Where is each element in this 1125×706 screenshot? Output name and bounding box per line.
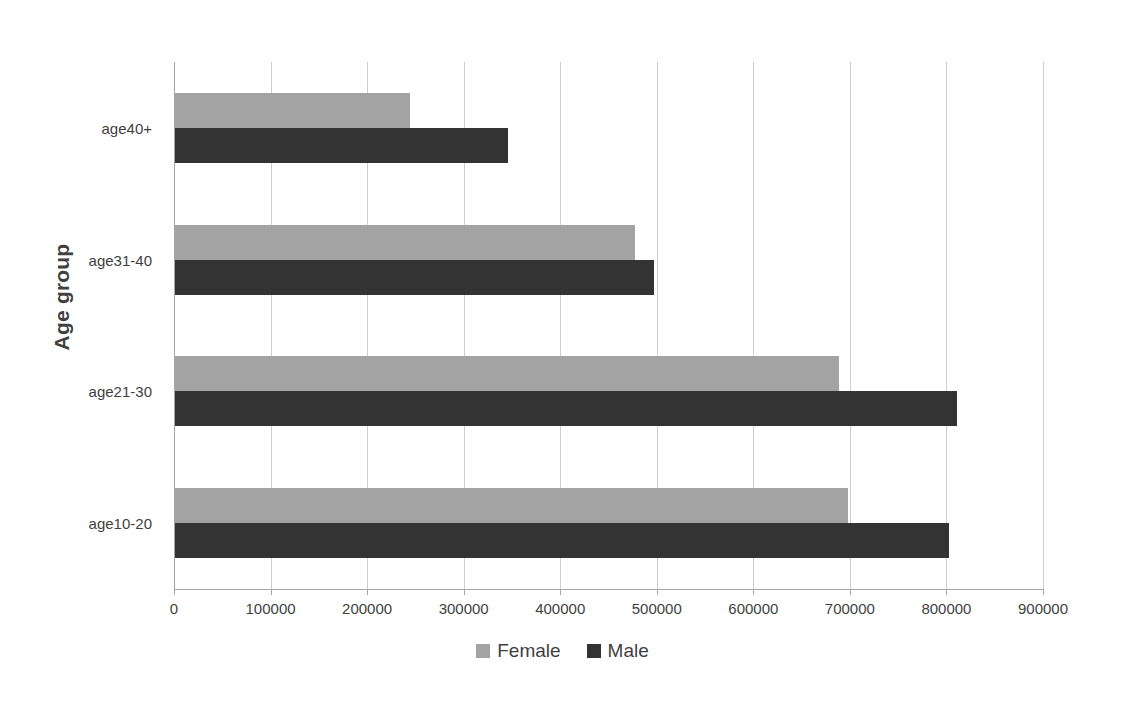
bar-group: [175, 488, 1044, 558]
chart-legend: FemaleMale: [0, 640, 1125, 662]
x-tick: [1043, 589, 1044, 595]
bar-male-age31-40: [175, 260, 654, 295]
x-tick: [464, 589, 465, 595]
x-tick-label-200000: 200000: [342, 600, 392, 617]
legend-item-female[interactable]: Female: [476, 640, 560, 662]
bar-female-age40+: [175, 93, 410, 128]
legend-item-male[interactable]: Male: [587, 640, 649, 662]
bar-group: [175, 356, 1044, 426]
x-tick-label-100000: 100000: [246, 600, 296, 617]
x-tick-label-400000: 400000: [535, 600, 585, 617]
bar-female-age21-30: [175, 356, 839, 391]
bar-male-age21-30: [175, 391, 957, 426]
x-tick-label-900000: 900000: [1018, 600, 1068, 617]
x-tick-label-700000: 700000: [825, 600, 875, 617]
x-tick-label-500000: 500000: [632, 600, 682, 617]
x-tick: [367, 589, 368, 595]
x-tick-label-300000: 300000: [439, 600, 489, 617]
bar-male-age10-20: [175, 523, 949, 558]
y-tick-label-age40+: age40+: [102, 119, 152, 136]
plot-area: [174, 62, 1043, 589]
bar-female-age31-40: [175, 225, 635, 260]
bar-group: [175, 225, 1044, 295]
legend-label-male: Male: [608, 640, 649, 662]
bar-male-age40+: [175, 128, 508, 163]
bar-female-age10-20: [175, 488, 848, 523]
x-tick: [850, 589, 851, 595]
y-tick-label-age31-40: age31-40: [89, 251, 152, 268]
x-tick-label-0: 0: [170, 600, 178, 617]
y-tick-label-age21-30: age21-30: [89, 383, 152, 400]
y-axis-tick-labels: age10-20age21-30age31-40age40+: [0, 62, 164, 589]
x-tick: [657, 589, 658, 595]
x-tick: [560, 589, 561, 595]
x-tick: [753, 589, 754, 595]
legend-label-female: Female: [497, 640, 560, 662]
x-tick: [946, 589, 947, 595]
x-axis-line: [174, 589, 1043, 590]
legend-swatch-male: [587, 644, 601, 658]
bar-chart: Age group age10-20age21-30age31-40age40+…: [0, 0, 1125, 706]
x-tick-label-600000: 600000: [728, 600, 778, 617]
y-tick-label-age10-20: age10-20: [89, 515, 152, 532]
x-tick: [271, 589, 272, 595]
legend-swatch-female: [476, 644, 490, 658]
x-tick-label-800000: 800000: [921, 600, 971, 617]
x-tick: [174, 589, 175, 595]
bar-group: [175, 93, 1044, 163]
